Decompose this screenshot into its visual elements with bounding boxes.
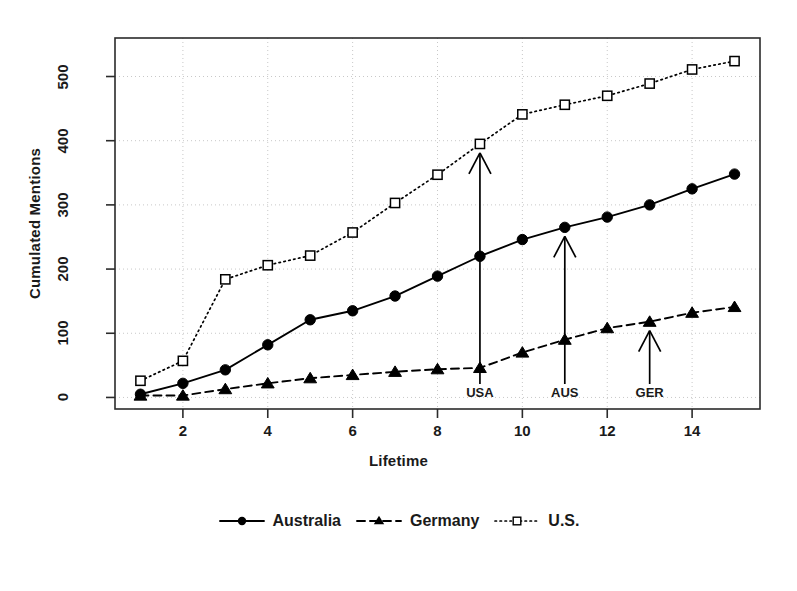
- x-tick-label: 6: [323, 422, 383, 439]
- marker-us: [136, 376, 145, 385]
- cumulated-mentions-line-chart: [0, 0, 797, 591]
- annotation-arrow-head: [469, 153, 480, 174]
- chart-legend: AustraliaGermanyU.S.: [0, 512, 797, 530]
- legend-entry-us: U.S.: [493, 512, 579, 530]
- marker-us: [390, 198, 399, 207]
- y-tick-label: 100: [53, 303, 73, 363]
- marker-australia: [560, 222, 570, 232]
- legend-entry-australia: Australia: [218, 512, 341, 530]
- series-line-us: [140, 61, 734, 381]
- annotation-label-ger: GER: [615, 385, 685, 400]
- y-tick-label: 400: [53, 111, 73, 171]
- legend-key-dotted-line-open-square: [493, 513, 541, 529]
- annotation-label-aus: AUS: [530, 385, 600, 400]
- legend-key-solid-line-filled-circle: [218, 513, 266, 529]
- annotation-label-usa: USA: [445, 385, 515, 400]
- x-tick-label: 14: [662, 422, 722, 439]
- legend-label: U.S.: [548, 512, 579, 530]
- legend-label: Germany: [410, 512, 479, 530]
- legend-key-glyph: [493, 513, 541, 529]
- x-axis-title: Lifetime: [0, 452, 797, 469]
- marker-us: [645, 79, 654, 88]
- marker-us: [433, 170, 442, 179]
- annotation-arrow-head: [639, 331, 650, 352]
- marker-australia: [729, 169, 739, 179]
- legend-key-glyph: [355, 513, 403, 529]
- marker-australia: [644, 200, 654, 210]
- chart-figure: Cumulated Mentions Lifetime 010020030040…: [0, 0, 797, 591]
- marker-australia: [263, 340, 273, 350]
- marker-us: [518, 110, 527, 119]
- legend-marker-filled-triangle: [374, 516, 384, 524]
- marker-us: [178, 356, 187, 365]
- marker-germany: [346, 369, 359, 379]
- annotation-arrow-head: [565, 236, 576, 257]
- marker-australia: [390, 291, 400, 301]
- legend-label: Australia: [273, 512, 341, 530]
- marker-germany: [601, 322, 614, 332]
- marker-us: [603, 91, 612, 100]
- marker-us: [688, 65, 697, 74]
- x-tick-label: 2: [153, 422, 213, 439]
- plot-frame: [115, 38, 760, 409]
- annotation-arrow-head: [554, 236, 565, 257]
- x-tick-label: 8: [408, 422, 468, 439]
- marker-germany: [728, 301, 741, 311]
- marker-australia: [305, 315, 315, 325]
- marker-germany: [219, 383, 232, 393]
- legend-entry-germany: Germany: [355, 512, 479, 530]
- marker-australia: [432, 271, 442, 281]
- marker-us: [475, 139, 484, 148]
- marker-us: [560, 100, 569, 109]
- marker-australia: [687, 184, 697, 194]
- marker-australia: [602, 212, 612, 222]
- legend-marker-open-square: [514, 517, 522, 525]
- annotation-arrow-head: [650, 331, 661, 352]
- x-tick-label: 12: [577, 422, 637, 439]
- annotation-arrow-head: [480, 153, 491, 174]
- x-tick-label: 4: [238, 422, 298, 439]
- legend-marker-filled-circle: [237, 517, 245, 525]
- marker-us: [348, 228, 357, 237]
- legend-key-dashed-line-filled-triangle: [355, 513, 403, 529]
- x-tick-label: 10: [492, 422, 552, 439]
- marker-us: [221, 275, 230, 284]
- y-axis-title: Cumulated Mentions: [26, 38, 43, 409]
- marker-us: [306, 251, 315, 260]
- legend-key-glyph: [218, 513, 266, 529]
- marker-australia: [517, 234, 527, 244]
- marker-australia: [178, 378, 188, 388]
- marker-australia: [347, 306, 357, 316]
- y-tick-label: 200: [53, 239, 73, 299]
- marker-australia: [220, 365, 230, 375]
- y-tick-label: 0: [53, 367, 73, 427]
- marker-us: [263, 261, 272, 270]
- y-tick-label: 300: [53, 175, 73, 235]
- y-tick-label: 500: [53, 47, 73, 107]
- marker-us: [730, 57, 739, 66]
